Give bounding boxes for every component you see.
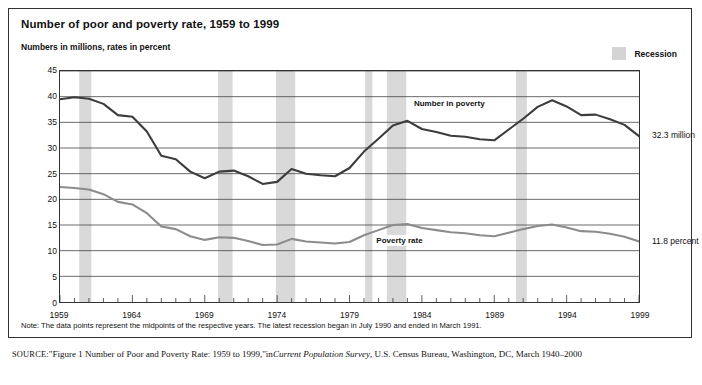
x-axis-tick-label: 1979 bbox=[340, 310, 359, 320]
y-axis-tick-label: 0 bbox=[31, 298, 57, 308]
source-tail: , U.S. Census Bureau, Washington, DC, Ma… bbox=[370, 349, 582, 359]
x-axis-tick-label: 1999 bbox=[631, 310, 650, 320]
end-label-poverty-rate: 11.8 percent bbox=[652, 236, 699, 246]
series-line-number-in-poverty bbox=[60, 97, 639, 184]
recession-band bbox=[365, 71, 372, 302]
series-label-number-in-poverty: Number in poverty bbox=[411, 98, 488, 109]
plot-area: Number in poverty Poverty rate bbox=[59, 70, 640, 303]
x-axis-tick-label: 1974 bbox=[267, 310, 286, 320]
chart-svg bbox=[60, 71, 639, 302]
y-axis-tick-label: 45 bbox=[31, 65, 57, 75]
x-axis-tick-label: 1959 bbox=[50, 310, 69, 320]
x-axis-tick-label: 1964 bbox=[122, 310, 141, 320]
x-axis-tick-label: 1969 bbox=[195, 310, 214, 320]
recession-band bbox=[218, 71, 232, 302]
gridlines-horizontal bbox=[60, 71, 639, 276]
source-prefix: SOURCE: bbox=[12, 350, 49, 359]
plot-wrapper: Number in poverty Poverty rate 051015202… bbox=[21, 66, 681, 316]
recession-swatch-icon bbox=[612, 47, 626, 60]
figure-title: Number of poor and poverty rate, 1959 to… bbox=[21, 18, 279, 30]
source-quoted-title: "Figure 1 Number of Poor and Poverty Rat… bbox=[49, 349, 266, 359]
series-label-poverty-rate: Poverty rate bbox=[373, 235, 425, 246]
figure-note: Note: The data points represent the midp… bbox=[21, 321, 681, 330]
x-axis-tick-label: 1994 bbox=[558, 310, 577, 320]
xaxis-minor-ticks bbox=[60, 295, 639, 302]
recession-band bbox=[516, 71, 527, 302]
y-axis-tick-label: 40 bbox=[31, 91, 57, 101]
figure-screenshot: Number of poor and poverty rate, 1959 to… bbox=[0, 0, 702, 385]
figure-container: Number of poor and poverty rate, 1959 to… bbox=[8, 8, 692, 338]
y-axis-tick-label: 20 bbox=[31, 194, 57, 204]
y-axis-tick-label: 30 bbox=[31, 143, 57, 153]
source-publication: Current Population Survey bbox=[273, 349, 370, 359]
recession-band bbox=[387, 71, 406, 302]
end-label-number-in-poverty: 32.3 million bbox=[652, 130, 695, 140]
legend: Recession bbox=[612, 47, 677, 60]
y-axis-tick-label: 5 bbox=[31, 272, 57, 282]
recession-band bbox=[276, 71, 295, 302]
legend-label-recession: Recession bbox=[634, 49, 677, 59]
y-axis-tick-label: 35 bbox=[31, 117, 57, 127]
y-axis-tick-label: 10 bbox=[31, 246, 57, 256]
figure-source: SOURCE:"Figure 1 Number of Poor and Pove… bbox=[12, 349, 692, 359]
series-line-poverty-rate bbox=[60, 187, 639, 245]
figure-subtitle: Numbers in millions, rates in percent bbox=[21, 42, 170, 52]
x-axis-tick-label: 1984 bbox=[413, 310, 432, 320]
recession-band bbox=[79, 71, 91, 302]
y-axis-tick-label: 15 bbox=[31, 220, 57, 230]
x-axis-tick-label: 1989 bbox=[485, 310, 504, 320]
y-axis-tick-label: 25 bbox=[31, 169, 57, 179]
source-in-word: in bbox=[266, 349, 273, 359]
